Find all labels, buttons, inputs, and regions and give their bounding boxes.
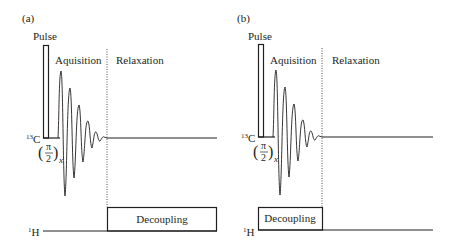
pulse-label: Pulse (248, 30, 272, 42)
pulse-angle-denominator: 2 (261, 152, 266, 163)
acquisition-label: Aquisition (55, 54, 102, 66)
panel-a: (a) Pulse Aquisition Relaxation 13C ( π … (22, 12, 217, 238)
pulse-angle-label: ( π 2 ) x (38, 141, 63, 165)
pulse-label: Pulse (33, 30, 57, 42)
fid-signal (273, 70, 322, 195)
pulse-angle-label: ( π 2 ) x (253, 140, 278, 164)
fid-signal (58, 71, 107, 196)
panel-b: (b) Pulse Aquisition Relaxation 13C ( π … (237, 12, 433, 238)
svg-text:(: ( (253, 143, 258, 161)
proton-label: 1H (28, 226, 40, 238)
relaxation-label: Relaxation (116, 54, 164, 66)
pulse-angle-numerator: π (261, 140, 266, 151)
pulse-axis: x (58, 155, 63, 165)
pulse-sequence-diagram: (a) Pulse Aquisition Relaxation 13C ( π … (0, 0, 452, 247)
pulse-rectangle (259, 45, 264, 138)
panel-label: (a) (22, 12, 35, 25)
svg-text:): ) (268, 143, 273, 161)
decoupling-label: Decoupling (136, 213, 188, 225)
svg-text:(: ( (38, 144, 43, 162)
pulse-angle-denominator: 2 (46, 153, 51, 164)
pulse-angle-numerator: π (46, 141, 51, 152)
decoupling-label: Decoupling (264, 212, 316, 224)
pulse-axis: x (273, 154, 278, 164)
svg-text:): ) (53, 144, 58, 162)
pulse-rectangle (44, 46, 49, 139)
panel-label: (b) (237, 12, 250, 25)
relaxation-label: Relaxation (332, 54, 380, 66)
proton-label: 1H (243, 226, 255, 238)
acquisition-label: Aquisition (270, 54, 317, 66)
